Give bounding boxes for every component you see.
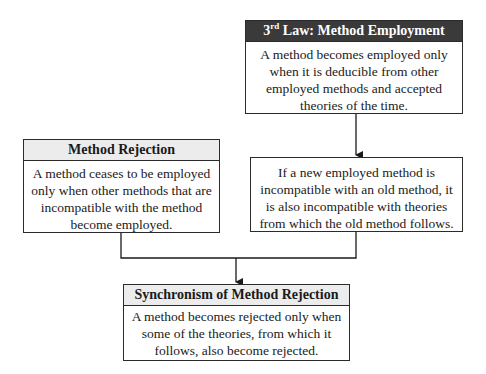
node-synchronism-of-method-rejection: Synchronism of Method Rejection A method… xyxy=(123,284,350,361)
node-body: A method ceases to be employed only when… xyxy=(24,161,219,237)
node-body: If a new employed method is incompatible… xyxy=(251,158,462,236)
node-body: A method becomes rejected only when some… xyxy=(124,306,349,363)
node-header: 3rd Law: Method Employment xyxy=(246,21,462,42)
node-method-employment-law: 3rd Law: Method Employment A method beco… xyxy=(245,20,463,114)
node-header: Synchronism of Method Rejection xyxy=(124,285,349,306)
node-method-rejection: Method Rejection A method ceases to be e… xyxy=(23,139,220,233)
node-body: A method becomes employed only when it i… xyxy=(246,42,462,118)
node-incompatibility: If a new employed method is incompatible… xyxy=(250,157,463,232)
node-header: Method Rejection xyxy=(24,140,219,161)
